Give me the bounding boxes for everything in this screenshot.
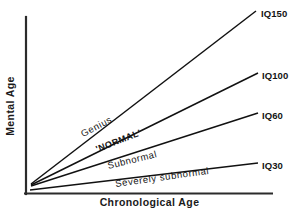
series-line-iq100 xyxy=(31,73,258,185)
series-label-iq150: IQ150 xyxy=(261,8,287,19)
series-label-iq30: IQ30 xyxy=(262,160,283,171)
y-axis-label: Mental Age xyxy=(4,71,16,141)
iq-mental-age-chart: Chronological Age Mental Age IQ150 IQ100… xyxy=(0,0,299,216)
series-label-iq100: IQ100 xyxy=(262,70,288,81)
series-label-iq60: IQ60 xyxy=(262,110,283,121)
x-axis-label: Chronological Age xyxy=(0,196,299,208)
